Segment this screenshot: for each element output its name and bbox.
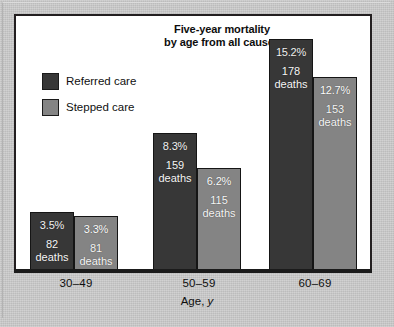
bar-count-unit: deaths bbox=[158, 172, 191, 185]
bar-count-number: 159 bbox=[158, 159, 191, 172]
bar-value-label-stepped-30-49: 3.3% bbox=[84, 223, 108, 235]
bar-count-number: 82 bbox=[35, 238, 68, 251]
bar-count-unit: deaths bbox=[274, 78, 307, 91]
bar-count-number: 178 bbox=[274, 65, 307, 78]
plot-area: Five-year mortality by age from all caus… bbox=[16, 16, 370, 271]
bar-count-label-stepped-30-49: 81 deaths bbox=[79, 242, 112, 267]
x-axis-title-text: Age, bbox=[181, 295, 205, 307]
x-axis-tick-label-50-59: 50–59 bbox=[153, 277, 245, 289]
legend-swatch-icon-referred-care bbox=[42, 73, 59, 90]
bar-count-number: 153 bbox=[318, 103, 351, 116]
bar-count-unit: deaths bbox=[35, 251, 68, 264]
figure-container: Five-year mortality by age from all caus… bbox=[0, 0, 394, 327]
x-axis-tick-label-30-49: 30–49 bbox=[30, 277, 122, 289]
chart-title-line-1: Five-year mortality bbox=[174, 23, 270, 35]
bar-count-unit: deaths bbox=[79, 255, 112, 268]
bar-count-unit: deaths bbox=[202, 207, 235, 220]
bar-referred-60-69: 15.2% 178 deaths bbox=[269, 39, 313, 271]
bar-referred-30-49: 3.5% 82 deaths bbox=[30, 212, 74, 271]
bar-value-label-stepped-50-59: 6.2% bbox=[207, 175, 231, 187]
plot-frame: Five-year mortality by age from all caus… bbox=[14, 14, 372, 273]
bar-value-label-referred-60-69: 15.2% bbox=[276, 46, 306, 58]
x-axis-title-unit: y bbox=[208, 295, 214, 307]
x-axis-tick-label-60-69: 60–69 bbox=[269, 277, 361, 289]
bar-count-label-referred-30-49: 82 deaths bbox=[35, 238, 68, 263]
bar-count-label-stepped-50-59: 115 deaths bbox=[202, 194, 235, 219]
x-axis-line bbox=[14, 269, 372, 273]
bar-value-label-referred-50-59: 8.3% bbox=[163, 140, 187, 152]
legend-label-stepped-care: Stepped care bbox=[66, 101, 134, 113]
legend-item-referred-care: Referred care bbox=[42, 70, 136, 92]
bar-stepped-50-59: 6.2% 115 deaths bbox=[197, 168, 241, 271]
bar-count-unit: deaths bbox=[318, 116, 351, 129]
legend: Referred care Stepped care bbox=[42, 70, 136, 122]
bar-stepped-30-49: 3.3% 81 deaths bbox=[74, 216, 118, 271]
legend-item-stepped-care: Stepped care bbox=[42, 96, 136, 118]
legend-swatch-icon-stepped-care bbox=[42, 99, 59, 116]
bar-count-number: 115 bbox=[202, 194, 235, 207]
bar-count-number: 81 bbox=[79, 242, 112, 255]
chart-title-line-2: by age from all causes bbox=[164, 36, 280, 48]
bar-stepped-60-69: 12.7% 153 deaths bbox=[313, 77, 357, 271]
bar-value-label-stepped-60-69: 12.7% bbox=[320, 84, 350, 96]
bar-count-label-stepped-60-69: 153 deaths bbox=[318, 103, 351, 128]
bar-referred-50-59: 8.3% 159 deaths bbox=[153, 133, 197, 271]
bar-count-label-referred-60-69: 178 deaths bbox=[274, 65, 307, 90]
x-axis-title: Age, y bbox=[0, 295, 394, 307]
bar-value-label-referred-30-49: 3.5% bbox=[40, 219, 64, 231]
legend-label-referred-care: Referred care bbox=[66, 75, 136, 87]
bar-count-label-referred-50-59: 159 deaths bbox=[158, 159, 191, 184]
